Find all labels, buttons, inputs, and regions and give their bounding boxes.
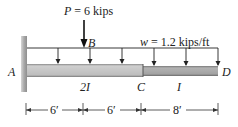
label-D: D: [222, 66, 231, 78]
beam-segment-I: [143, 66, 218, 76]
segment-label-I: I: [177, 81, 181, 93]
point-load-arrow: [81, 20, 88, 48]
beam-segment-2I: [27, 64, 143, 77]
beam-diagram: [0, 0, 238, 127]
label-C: C: [137, 81, 145, 93]
dimension-label-CD: 8′: [173, 104, 182, 116]
distributed-load-label: w = 1.2 kips/ft: [140, 36, 209, 48]
segment-label-2I: 2I: [80, 81, 90, 93]
label-A: A: [8, 66, 15, 78]
label-B: B: [88, 37, 95, 49]
dimension-label-AB: 6′: [50, 104, 59, 116]
dimension-label-BC: 6′: [107, 104, 116, 116]
point-load-label: PP = 6 kips = 6 kips: [64, 5, 113, 17]
fixed-wall-support: [21, 36, 27, 92]
